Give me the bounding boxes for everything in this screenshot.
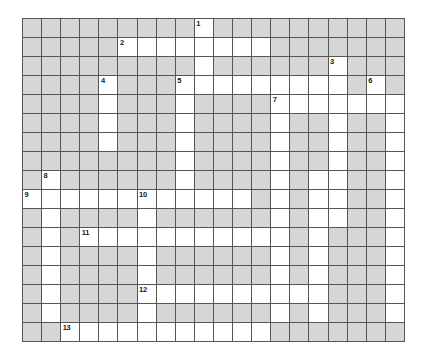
crossword-cell-open[interactable] [233,285,252,304]
crossword-cell-open[interactable] [385,133,404,152]
crossword-cell-open[interactable] [99,133,118,152]
crossword-cell-open[interactable] [328,190,347,209]
crossword-grid[interactable]: 12345678910111213 [22,18,405,342]
crossword-cell-open[interactable] [175,95,194,114]
crossword-cell-open[interactable]: 2 [118,38,137,57]
crossword-cell-open[interactable] [194,38,213,57]
crossword-cell-open[interactable] [233,228,252,247]
crossword-cell-open[interactable] [194,228,213,247]
crossword-cell-open[interactable] [213,38,232,57]
crossword-cell-open[interactable] [328,114,347,133]
crossword-cell-open[interactable] [271,228,290,247]
crossword-cell-open[interactable] [194,57,213,76]
crossword-cell-open[interactable] [385,95,404,114]
crossword-cell-open[interactable] [271,133,290,152]
crossword-cell-open[interactable] [271,285,290,304]
crossword-cell-open[interactable] [80,323,99,342]
crossword-cell-open[interactable]: 11 [80,228,99,247]
crossword-cell-open[interactable]: 3 [328,57,347,76]
crossword-cell-open[interactable] [137,266,156,285]
crossword-cell-open[interactable] [328,95,347,114]
crossword-cell-open[interactable] [175,190,194,209]
crossword-cell-open[interactable] [385,209,404,228]
crossword-cell-open[interactable] [252,285,271,304]
crossword-cell-open[interactable] [175,133,194,152]
crossword-cell-open[interactable] [175,285,194,304]
crossword-cell-open[interactable] [309,209,328,228]
crossword-cell-open[interactable] [194,190,213,209]
crossword-cell-open[interactable] [99,95,118,114]
crossword-cell-open[interactable] [309,228,328,247]
crossword-cell-open[interactable] [99,323,118,342]
crossword-cell-open[interactable]: 8 [42,171,61,190]
crossword-cell-open[interactable] [118,323,137,342]
crossword-cell-open[interactable] [290,95,309,114]
crossword-cell-open[interactable] [175,38,194,57]
crossword-cell-open[interactable] [156,38,175,57]
crossword-cell-open[interactable] [309,304,328,323]
crossword-cell-open[interactable] [252,38,271,57]
crossword-cell-open[interactable] [347,95,366,114]
crossword-cell-open[interactable] [271,114,290,133]
crossword-cell-open[interactable] [137,323,156,342]
crossword-cell-open[interactable] [290,76,309,95]
crossword-cell-open[interactable] [99,228,118,247]
crossword-cell-open[interactable] [233,190,252,209]
crossword-cell-open[interactable] [175,152,194,171]
crossword-cell-open[interactable] [137,228,156,247]
crossword-cell-open[interactable] [156,323,175,342]
crossword-cell-open[interactable] [175,323,194,342]
crossword-cell-open[interactable] [385,228,404,247]
crossword-cell-open[interactable] [213,190,232,209]
crossword-cell-open[interactable] [42,285,61,304]
crossword-cell-open[interactable] [271,190,290,209]
crossword-cell-open[interactable] [271,247,290,266]
crossword-cell-open[interactable] [328,171,347,190]
crossword-cell-open[interactable] [252,76,271,95]
crossword-cell-open[interactable] [137,38,156,57]
crossword-cell-open[interactable] [156,285,175,304]
crossword-cell-open[interactable] [385,114,404,133]
crossword-cell-open[interactable] [213,285,232,304]
crossword-cell-open[interactable] [42,228,61,247]
crossword-cell-open[interactable] [385,304,404,323]
crossword-cell-open[interactable] [137,247,156,266]
crossword-cell-open[interactable] [175,114,194,133]
crossword-cell-open[interactable] [42,247,61,266]
crossword-cell-open[interactable] [252,323,271,342]
crossword-cell-open[interactable] [213,76,232,95]
crossword-cell-open[interactable] [366,95,385,114]
crossword-cell-open[interactable] [42,190,61,209]
crossword-cell-open[interactable] [213,323,232,342]
crossword-cell-open[interactable] [385,266,404,285]
crossword-cell-open[interactable] [42,209,61,228]
crossword-cell-open[interactable] [137,209,156,228]
crossword-cell-open[interactable]: 13 [61,323,80,342]
crossword-cell-open[interactable] [328,76,347,95]
crossword-cell-open[interactable] [309,266,328,285]
crossword-cell-open[interactable] [385,247,404,266]
crossword-cell-open[interactable] [213,228,232,247]
crossword-cell-open[interactable] [328,152,347,171]
crossword-cell-open[interactable] [309,171,328,190]
crossword-cell-open[interactable] [99,114,118,133]
crossword-cell-open[interactable] [271,266,290,285]
crossword-cell-open[interactable] [309,95,328,114]
crossword-cell-open[interactable] [385,171,404,190]
crossword-cell-open[interactable] [385,152,404,171]
crossword-cell-open[interactable] [252,228,271,247]
crossword-cell-open[interactable] [271,304,290,323]
crossword-cell-open[interactable] [309,76,328,95]
crossword-cell-open[interactable]: 12 [137,285,156,304]
crossword-cell-open[interactable] [328,209,347,228]
crossword-cell-open[interactable] [309,285,328,304]
crossword-cell-open[interactable] [156,228,175,247]
crossword-cell-open[interactable] [271,209,290,228]
crossword-cell-open[interactable]: 1 [194,19,213,38]
crossword-cell-open[interactable] [233,38,252,57]
crossword-cell-open[interactable] [80,190,99,209]
crossword-cell-open[interactable] [118,228,137,247]
crossword-cell-open[interactable]: 4 [99,76,118,95]
crossword-cell-open[interactable] [271,152,290,171]
crossword-cell-open[interactable] [42,266,61,285]
